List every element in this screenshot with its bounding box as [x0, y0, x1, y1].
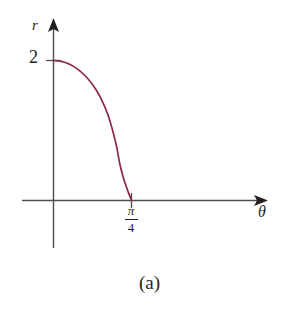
- x-tick-label-pi-over-4: π 4: [118, 204, 144, 234]
- polar-curve-figure: r 2 θ π 4 (a): [0, 0, 299, 316]
- plot-canvas: [0, 0, 299, 316]
- y-axis-label-r: r: [32, 18, 38, 33]
- fraction-denominator-4: 4: [118, 220, 144, 235]
- figure-caption: (a): [0, 272, 299, 294]
- y-tick-label-2: 2: [29, 48, 38, 66]
- x-axis-label-theta: θ: [258, 204, 266, 220]
- curve-r-equals-2-sqrt-cos-2theta: [54, 61, 132, 201]
- fraction-numerator-pi: π: [118, 204, 144, 219]
